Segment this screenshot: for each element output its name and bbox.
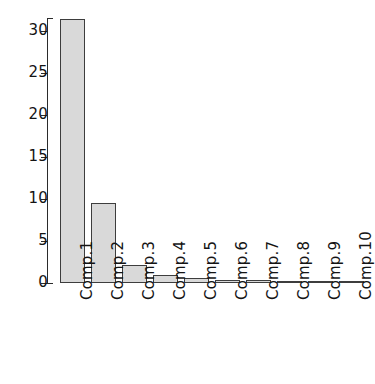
x-label-comp-10: Comp.10 [359,231,374,300]
x-label-comp-9: Comp.9 [328,241,343,300]
x-label-comp-2: Comp.2 [111,241,126,300]
x-label-comp-1: Comp.1 [80,241,95,300]
x-label-comp-4: Comp.4 [173,241,188,300]
x-label-comp-7: Comp.7 [266,241,281,300]
x-label-comp-5: Comp.5 [204,241,219,300]
x-label-comp-8: Comp.8 [297,241,312,300]
x-label-comp-3: Comp.3 [142,241,157,300]
x-label-comp-6: Comp.6 [235,241,250,300]
